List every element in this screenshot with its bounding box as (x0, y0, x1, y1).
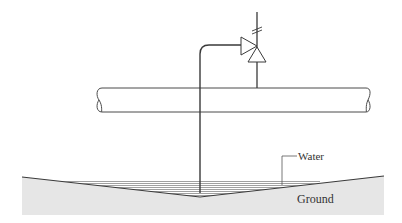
siphon-diagram: Water Ground (0, 0, 402, 223)
water-label: Water (298, 150, 324, 162)
water-leader-line (282, 156, 297, 185)
siphon-tube (200, 45, 241, 193)
ground-label: Ground (297, 192, 334, 206)
pipe (97, 88, 370, 112)
